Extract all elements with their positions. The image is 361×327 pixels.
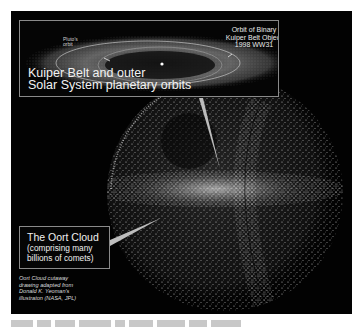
oort-cloud-figure: Pluto's orbit Orbit of Binary Kuiper Bel… xyxy=(11,11,352,314)
kuiper-title-line2: Solar System planetary orbits xyxy=(28,78,191,92)
binary-label-line2: Kuiper Belt Object xyxy=(226,34,279,41)
plutos-orbit-label: Pluto's orbit xyxy=(63,37,78,47)
oort-cloud-label-box: The Oort Cloud (comprising many billions… xyxy=(19,226,110,269)
credit-line2: drawing adapted from xyxy=(19,282,73,288)
illustration-credit: Oort Cloud cutaway drawing adapted from … xyxy=(19,275,76,301)
binary-kbo-label: Orbit of Binary Kuiper Belt Object 1998 … xyxy=(218,26,279,49)
pluto-label-line2: orbit xyxy=(63,41,73,47)
credit-line1: Oort Cloud cutaway xyxy=(19,275,68,281)
kuiper-inset-title: Kuiper Belt and outer Solar System plane… xyxy=(28,67,191,91)
oort-label-line2: (comprising many xyxy=(27,243,109,253)
kuiper-belt-inset: Pluto's orbit Orbit of Binary Kuiper Bel… xyxy=(19,20,279,97)
figure-caption-clipped xyxy=(11,320,311,327)
credit-line3: Donald K. Yeoman's xyxy=(19,288,69,294)
credit-line4: illustraton (NASA, JPL) xyxy=(19,295,76,301)
oort-label-line3: billions of comets) xyxy=(27,253,109,263)
sun-icon xyxy=(160,62,163,65)
binary-label-line1: Orbit of Binary xyxy=(232,26,277,33)
binary-label-line3: 1998 WW31 xyxy=(235,41,274,48)
oort-label-title: The Oort Cloud xyxy=(27,232,109,243)
